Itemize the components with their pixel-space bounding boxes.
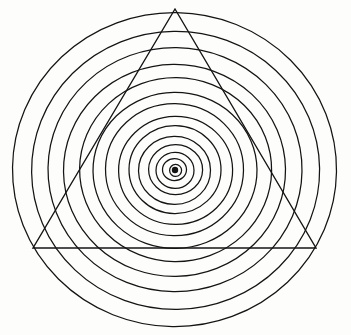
concentric-circles-diagram — [0, 0, 351, 335]
figure-container — [0, 0, 351, 335]
center-dot — [172, 167, 178, 173]
center-point-group — [172, 167, 178, 173]
